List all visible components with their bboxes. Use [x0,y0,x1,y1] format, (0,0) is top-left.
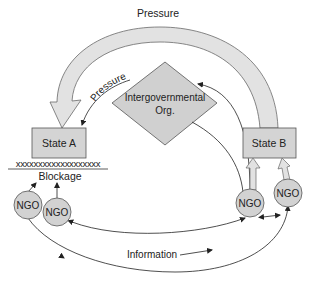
state-b-node: State B [243,128,296,158]
ngo-to-blockage-arrow [28,183,36,192]
state-a-label: State A [42,137,76,149]
pressure-label-top: Pressure [137,7,179,19]
ngo-node-1: NGO [14,191,42,219]
svg-text:NGO: NGO [239,198,262,209]
state-b-label: State B [252,137,286,149]
blockage-marks: xxxxxxxxxxxxxxxxxxx [16,158,101,169]
blockage: xxxxxxxxxxxxxxxxxxx Blockage [8,158,108,182]
igo-ngo-link [192,122,243,192]
ngo-node-3: NGO [236,189,264,217]
ngo-to-state-b-arrow [246,158,260,190]
state-a-node: State A [32,128,86,158]
svg-text:NGO: NGO [277,188,300,199]
information-arrow [180,250,212,255]
igo-label-line1: Intergovernmental [125,92,206,103]
information-label: Information [127,249,177,260]
svg-text:NGO: NGO [46,207,69,218]
ngo-node-2: NGO [43,198,71,226]
intergovernmental-org-node: Intergovernmental Org. [112,62,217,145]
information-link [72,218,245,233]
information-link [263,215,280,217]
svg-text:NGO: NGO [17,200,40,211]
blockage-label: Blockage [38,170,81,182]
ngo-node-4: NGO [274,179,302,207]
igo-label-line2: Org. [155,105,174,116]
ngo-to-state-b-arrow [278,158,290,180]
transnational-advocacy-diagram: Pressure Intergovernmental Org. Pressure… [0,0,310,281]
